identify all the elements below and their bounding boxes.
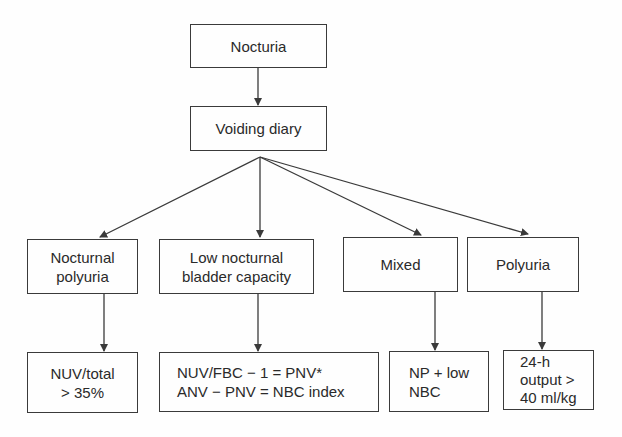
node-mixed: Mixed bbox=[343, 237, 458, 292]
node-voiding-diary: Voiding diary bbox=[190, 106, 327, 151]
node-label: Voiding diary bbox=[216, 119, 302, 138]
nocturia-flowchart: Nocturia Voiding diary Nocturnal polyuri… bbox=[0, 0, 622, 437]
criterion-nocturnal-polyuria: NUV/total > 35% bbox=[27, 352, 138, 413]
node-nocturnal-polyuria: Nocturnal polyuria bbox=[27, 239, 138, 294]
node-label: Nocturia bbox=[231, 37, 287, 56]
criterion-line: output > bbox=[520, 371, 575, 389]
criterion-line: ANV − PNV = NBC index bbox=[177, 382, 345, 401]
node-label-line: polyuria bbox=[56, 267, 109, 286]
node-polyuria: Polyuria bbox=[467, 237, 579, 292]
criterion-line: NUV/total bbox=[50, 364, 114, 383]
criterion-line: 24-h bbox=[520, 353, 550, 371]
node-label-line: Nocturnal bbox=[50, 248, 114, 267]
criterion-mixed: NP + low NBC bbox=[389, 351, 489, 412]
criterion-line: 40 ml/kg bbox=[520, 389, 577, 407]
node-nocturia: Nocturia bbox=[190, 24, 327, 68]
criterion-line: > 35% bbox=[61, 383, 104, 402]
node-low-nocturnal-bladder-capacity: Low nocturnal bladder capacity bbox=[159, 239, 314, 294]
node-label-line: Mixed bbox=[380, 255, 420, 274]
criterion-line: NP + low bbox=[409, 363, 469, 382]
arrow-to-nocturnal-polyuria bbox=[100, 157, 260, 237]
criterion-line: NBC bbox=[409, 382, 441, 401]
criterion-polyuria: 24-h output > 40 ml/kg bbox=[503, 350, 594, 410]
node-label-line: bladder capacity bbox=[182, 267, 291, 286]
node-label-line: Polyuria bbox=[496, 255, 550, 274]
criterion-line: NUV/FBC − 1 = PNV* bbox=[177, 363, 322, 382]
node-label-line: Low nocturnal bbox=[190, 248, 283, 267]
criterion-low-nocturnal-bladder-capacity: NUV/FBC − 1 = PNV* ANV − PNV = NBC index bbox=[159, 352, 379, 412]
